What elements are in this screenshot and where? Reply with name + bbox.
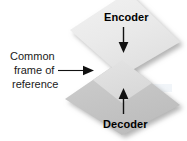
encoder-label: Encoder: [104, 11, 149, 23]
diagram-canvas: Encoder Decoder Common frame of referenc…: [0, 0, 187, 141]
callout-line-2: frame of: [14, 64, 55, 76]
callout-line-3: reference: [12, 78, 58, 90]
common-frame-callout: Common frame of reference: [10, 50, 58, 90]
callout-line-1: Common: [10, 50, 55, 62]
diagram-illustration: Encoder Decoder Common frame of referenc…: [0, 0, 187, 141]
decoder-label: Decoder: [103, 118, 148, 130]
